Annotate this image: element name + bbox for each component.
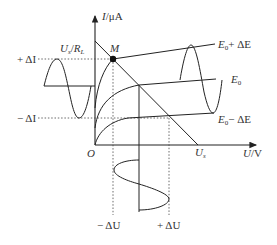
us-over-rl-label: Us/RL xyxy=(60,42,84,56)
minus-delta-u-label: − ΔU xyxy=(97,219,120,231)
dotted-guides xyxy=(38,59,170,215)
operating-point-m xyxy=(110,56,116,62)
voltage-sine-wave xyxy=(114,160,169,210)
plus-delta-i-label: + ΔI xyxy=(17,53,36,65)
x-axis-label: U/V xyxy=(243,147,262,159)
curve-label-e0: E0 xyxy=(230,73,242,87)
load-line xyxy=(95,41,198,145)
iv-diagram: I/μA Us/RL M + ΔI − ΔI O Us U/V E0+ ΔE E… xyxy=(0,0,277,245)
origin-label: O xyxy=(87,147,95,159)
plus-delta-u-label: + ΔU xyxy=(157,219,180,231)
curve-label-e0-minus-de: E0− ΔE xyxy=(217,113,251,127)
point-m-label: M xyxy=(109,42,120,54)
us-label: Us xyxy=(195,146,206,160)
current-sine-wave xyxy=(44,59,91,118)
y-axis-label: I/μA xyxy=(101,10,123,22)
curve-label-e0-plus-de: E0+ ΔE xyxy=(217,38,251,52)
minus-delta-i-label: − ΔI xyxy=(17,112,36,124)
